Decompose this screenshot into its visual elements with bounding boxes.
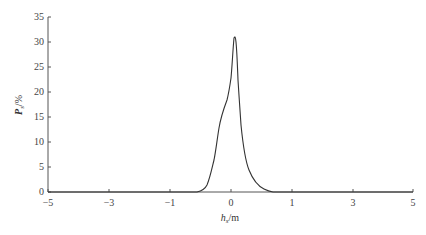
x-tick-label: 1 (290, 197, 295, 208)
y-tick-label: 5 (39, 161, 44, 172)
x-tick-labels: −5 −3 −1 0 1 3 5 (43, 197, 416, 208)
x-tick-label: 0 (229, 197, 234, 208)
chart: 0 5 10 15 20 25 30 35 −5 −3 −1 0 1 3 5 h… (0, 0, 426, 235)
y-tick-labels: 0 5 10 15 20 25 30 35 (34, 11, 44, 197)
series-line (48, 37, 413, 192)
y-axis-label: Ps/% (13, 95, 26, 115)
x-tick-label: −5 (43, 197, 54, 208)
y-tick-label: 20 (34, 86, 44, 97)
x-tick-label: 5 (411, 197, 416, 208)
x-tick-label: −1 (165, 197, 176, 208)
y-tick-label: 15 (34, 111, 44, 122)
x-tick-label: −3 (104, 197, 115, 208)
y-tick-label: 30 (34, 36, 44, 47)
y-tick-label: 35 (34, 11, 44, 22)
y-tick-label: 25 (34, 61, 44, 72)
y-tick-label: 0 (39, 186, 44, 197)
x-tick-label: 3 (351, 197, 356, 208)
x-axis-label: hs/m (221, 212, 240, 225)
y-tick-label: 10 (34, 136, 44, 147)
